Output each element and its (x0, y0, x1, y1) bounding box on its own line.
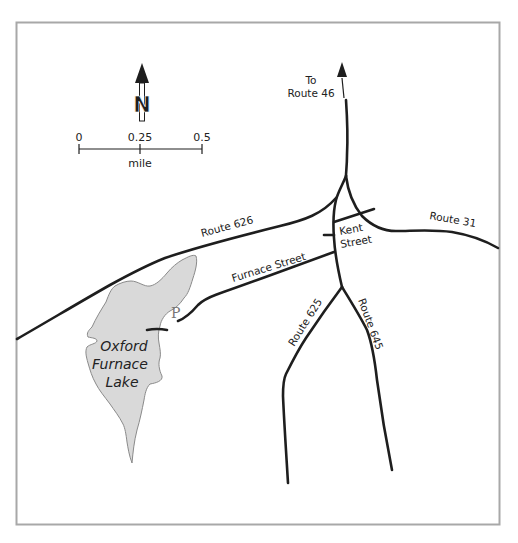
lake-label-line-2: Furnace (92, 356, 148, 372)
scale-label-025: 0.25 (128, 131, 153, 144)
dam-marker (147, 329, 167, 330)
scale-unit-label: mile (128, 157, 152, 170)
parking-icon: P (171, 305, 180, 321)
to-route-46-label-line-1: To (304, 74, 316, 86)
to-route-46-label-line-2: Route 46 (287, 87, 334, 99)
scale-label-0: 0 (76, 131, 83, 144)
lake-label-line-1: Oxford (100, 338, 148, 354)
to-route-46-road (346, 100, 347, 176)
north-label: N (133, 93, 151, 117)
map: Oxford Furnace Lake P Route 626 To Route… (0, 0, 518, 543)
scale-label-05: 0.5 (193, 131, 211, 144)
lake-label-line-3: Lake (105, 374, 138, 390)
